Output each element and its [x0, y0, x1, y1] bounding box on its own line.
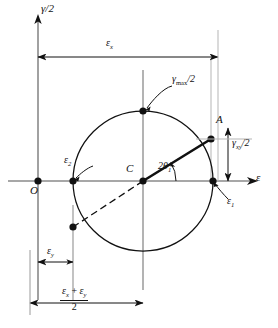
radius-line-cb-dashed: [73, 181, 143, 227]
point-a-label: A: [216, 114, 223, 125]
eps1-leader-arrowhead: [214, 183, 219, 187]
eps2-leader-line: [76, 166, 93, 178]
vertical-axis-label: γ/2: [41, 3, 54, 14]
mohr-circle-figure: γ/2 ε O C A γmax/2 εx γxy/2 2θ1 ε2 ε1 εy…: [0, 0, 278, 328]
gamma-xy-dimension-label: γxy/2: [232, 138, 250, 151]
eps2-label: ε2: [64, 155, 71, 168]
point-gamma-max: [139, 107, 146, 114]
origin-label: O: [30, 185, 38, 196]
gamma-max-leader-line: [147, 86, 172, 108]
radius-line-ca: [143, 139, 211, 181]
figure-canvas: [0, 0, 278, 328]
eps-y-dimension-label: εy: [47, 246, 54, 259]
eps1-label: ε1: [227, 196, 234, 209]
horizontal-axis-label: ε: [256, 172, 260, 183]
avg-strain-denominator: 2: [60, 301, 88, 312]
gamma-max-label: γmax/2: [172, 74, 195, 87]
angle-label: 2θ1: [158, 161, 171, 174]
avg-strain-dimension-label: εx + εy 2: [60, 286, 88, 312]
eps-x-dimension-label: εx: [106, 38, 113, 51]
point-eps2: [69, 177, 76, 184]
point-b: [69, 223, 76, 230]
avg-strain-numerator: εx + εy: [60, 286, 88, 301]
point-center: [139, 177, 146, 184]
center-label: C: [126, 163, 133, 174]
point-eps1: [209, 177, 216, 184]
